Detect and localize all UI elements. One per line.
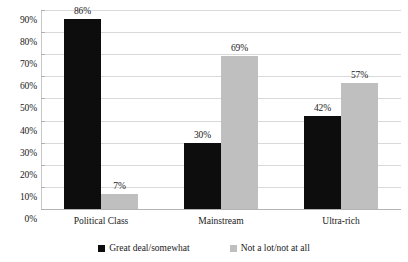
legend-label-series-a: Great deal/somewhat (109, 243, 189, 254)
y-axis-tick-label: 30% (3, 148, 37, 158)
y-axis-tick-mark (41, 10, 45, 11)
y-axis-tick-mark (41, 143, 45, 144)
y-axis-tick-mark (41, 209, 45, 210)
y-axis-tick-mark (41, 54, 45, 55)
y-axis-tick-label: 80% (3, 37, 37, 47)
y-axis-tick-mark (41, 165, 45, 166)
y-axis: 0%10%20%30%40%50%60%70%80%90% (0, 10, 37, 209)
y-axis-tick-label: 90% (3, 15, 37, 25)
legend-item-series-b: Not a lot/not at all (230, 243, 310, 254)
bar-value-label: 30% (174, 130, 231, 141)
y-axis-tick-label: 70% (3, 59, 37, 69)
bar-chart: 0%10%20%30%40%50%60%70%80%90% Great deal… (0, 0, 408, 262)
bar (184, 143, 221, 209)
legend-label-series-b: Not a lot/not at all (241, 243, 310, 254)
legend-item-series-a: Great deal/somewhat (98, 243, 189, 254)
legend-swatch-icon (98, 245, 105, 252)
bar-value-label: 42% (294, 103, 351, 114)
chart-legend: Great deal/somewhat Not a lot/not at all (0, 243, 408, 254)
bar (101, 194, 138, 209)
bar-value-label: 7% (91, 181, 148, 192)
x-axis-category-label: Political Class (41, 216, 161, 227)
x-axis-category-label: Ultra-rich (281, 216, 401, 227)
gridline (41, 209, 401, 210)
bar-value-label: 57% (331, 70, 388, 81)
bar (304, 116, 341, 209)
y-axis-tick-mark (41, 121, 45, 122)
y-axis-tick-mark (41, 98, 45, 99)
y-axis-tick-mark (41, 32, 45, 33)
y-axis-tick-label: 50% (3, 103, 37, 113)
bar-value-label: 69% (211, 43, 268, 54)
y-axis-tick-mark (41, 76, 45, 77)
bar (341, 83, 378, 209)
y-axis-tick-label: 40% (3, 126, 37, 136)
y-axis-tick-label: 20% (3, 170, 37, 180)
y-axis-tick-label: 0% (3, 214, 37, 224)
x-axis-category-label: Mainstream (161, 216, 281, 227)
bar-value-label: 86% (54, 6, 111, 17)
y-axis-tick-mark (41, 187, 45, 188)
y-axis-tick-label: 60% (3, 81, 37, 91)
legend-swatch-icon (230, 245, 237, 252)
y-axis-tick-label: 10% (3, 192, 37, 202)
